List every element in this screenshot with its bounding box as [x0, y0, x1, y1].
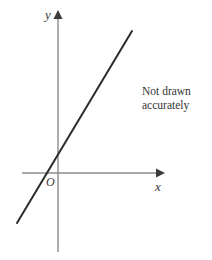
plotted-straight-line	[17, 31, 132, 223]
not-drawn-accurately-note: Not drawn accurately	[142, 84, 212, 112]
y-axis-label: y	[45, 8, 51, 21]
graph-figure: y x O Not drawn accurately	[0, 0, 212, 260]
note-line-2: accurately	[142, 98, 212, 112]
origin-label: O	[46, 176, 55, 188]
y-axis-arrowhead	[54, 10, 63, 19]
x-axis-arrowhead	[156, 169, 165, 178]
note-line-1: Not drawn	[142, 84, 212, 98]
x-axis-label: x	[155, 180, 161, 193]
coordinate-graph	[0, 0, 212, 260]
